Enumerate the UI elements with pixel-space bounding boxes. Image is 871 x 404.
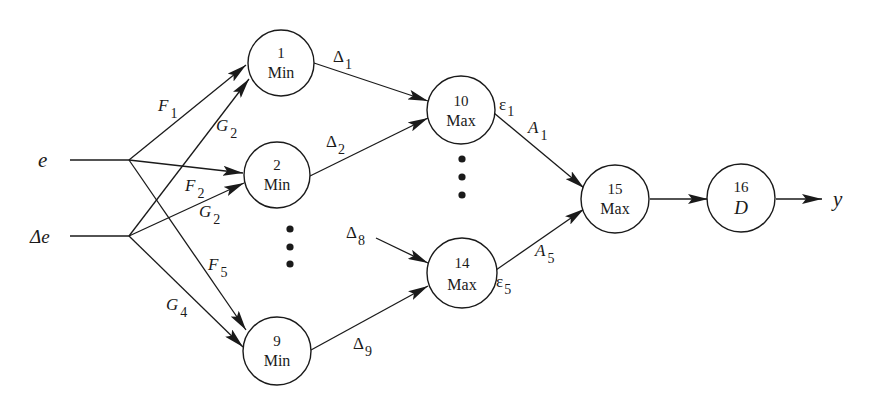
edge-label-A1: A1	[527, 118, 547, 143]
svg-text:Min: Min	[264, 352, 291, 369]
node-9-min: 9 Min	[243, 317, 311, 385]
svg-text:Max: Max	[446, 112, 475, 129]
node-14-max: 14 Max	[427, 238, 497, 308]
edge-delta8-to-14	[376, 238, 428, 263]
svg-text:16: 16	[734, 179, 750, 195]
edge-14-to-15	[496, 209, 584, 270]
edge-label-G2-upper: G2	[216, 116, 237, 141]
edge-9-to-14	[311, 286, 428, 350]
edge-de-to-9	[129, 236, 243, 347]
input-e: e	[38, 148, 129, 172]
svg-text:15: 15	[608, 181, 623, 197]
edge-de-to-1	[129, 79, 249, 236]
svg-text:9: 9	[273, 333, 281, 349]
edge-label-F1: F1	[157, 96, 177, 121]
edge-label-G2-lower: G2	[199, 202, 220, 227]
svg-text:1: 1	[277, 45, 285, 61]
svg-text:D: D	[733, 197, 748, 218]
svg-text:Min: Min	[264, 176, 291, 193]
edge-label-G4: G4	[166, 295, 187, 320]
edge-label-delta8: Δ8	[346, 223, 365, 248]
edge-label-F2: F2	[184, 176, 204, 201]
svg-text:14: 14	[455, 255, 471, 271]
node-10-max: 10 Max	[427, 76, 495, 144]
edge-label-delta2: Δ2	[326, 132, 345, 157]
edge-label-A5: A5	[534, 241, 554, 266]
edge-10-to-15	[494, 113, 584, 188]
edge-label-delta9: Δ9	[353, 334, 372, 359]
edge-label-epsilon5: ε5	[496, 272, 511, 297]
edge-label-delta1: Δ1	[333, 47, 352, 72]
svg-text:Min: Min	[268, 64, 295, 81]
fuzzy-inference-network-diagram: e Δe F1 G2 F2 G2 F5 G4 Δ1 Δ2 Δ8 Δ9 ε1 A1…	[0, 0, 871, 404]
svg-text:Max: Max	[447, 276, 476, 293]
max-column-ellipsis	[458, 155, 465, 198]
svg-text:Max: Max	[600, 200, 629, 217]
svg-text:2: 2	[273, 157, 281, 173]
node-1-min: 1 Min	[248, 30, 314, 96]
output-label-y: y	[831, 187, 843, 211]
node-15-max: 15 Max	[581, 165, 649, 233]
edge-e-to-1	[129, 65, 246, 160]
edge-1-to-10	[314, 63, 428, 101]
node-2-min: 2 Min	[244, 142, 310, 208]
edge-label-epsilon1: ε1	[499, 95, 514, 119]
input-delta-e: Δe	[29, 226, 129, 247]
min-column-ellipsis	[286, 225, 293, 267]
svg-text:10: 10	[454, 93, 469, 109]
input-label-e: e	[38, 148, 47, 172]
input-label-delta-e: Δe	[29, 226, 50, 247]
node-16-defuzz: 16 D	[707, 164, 775, 232]
edge-label-F5: F5	[207, 255, 227, 280]
